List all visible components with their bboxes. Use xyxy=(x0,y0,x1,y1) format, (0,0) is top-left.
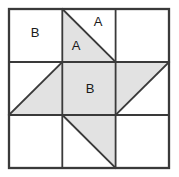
label-a-upper: A xyxy=(94,14,103,29)
label-b-center: B xyxy=(86,81,95,96)
label-a-lower: A xyxy=(72,38,81,53)
label-b-topleft: B xyxy=(31,25,40,40)
figure-container: B A A B xyxy=(0,0,179,177)
pinwheel-grid-diagram: B A A B xyxy=(0,0,179,177)
